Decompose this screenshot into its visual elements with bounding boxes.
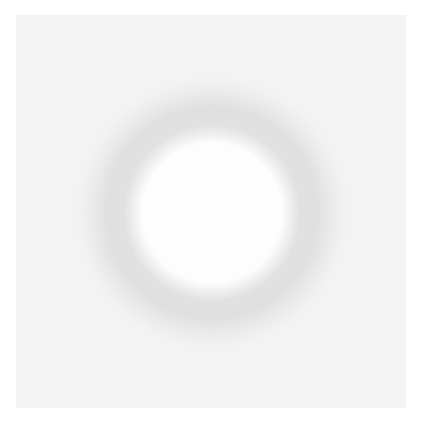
ring-svg [16,15,406,408]
speckle-overlay [16,15,406,408]
noisy-ring-image [16,15,406,408]
